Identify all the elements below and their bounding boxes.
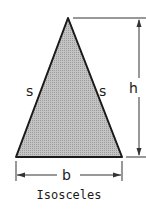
arrow-up-icon <box>137 19 142 27</box>
right-side-label: s <box>99 83 106 99</box>
arrow-left-icon <box>17 173 25 178</box>
arrow-right-icon <box>113 173 121 178</box>
left-side-label: s <box>26 83 33 99</box>
height-label: h <box>129 80 138 96</box>
base-label: b <box>62 167 71 183</box>
isosceles-diagram: s s h b Isosceles <box>0 0 146 210</box>
figure-caption: Isosceles <box>36 188 101 202</box>
arrow-down-icon <box>137 148 142 156</box>
